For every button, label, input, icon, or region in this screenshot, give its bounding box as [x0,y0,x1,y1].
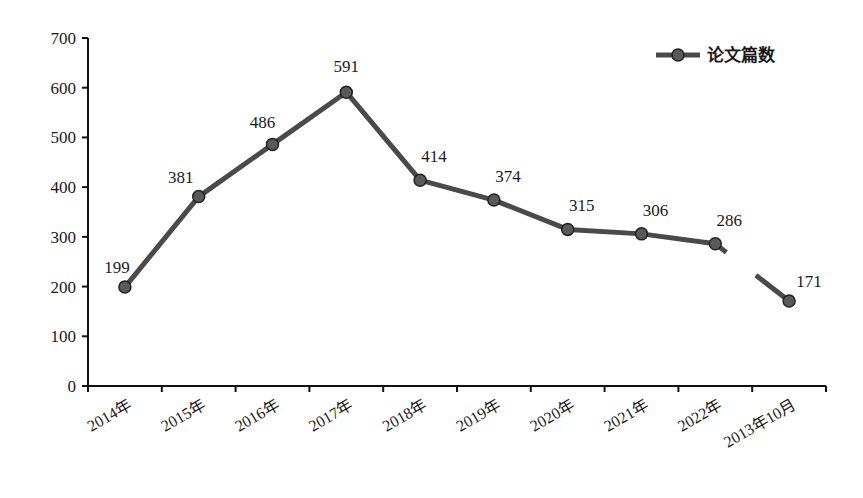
x-tick-label: 2017年 [306,396,356,435]
x-tick-label: 2022年 [675,396,725,435]
series-segment [420,180,494,200]
x-tick-label: 2020年 [527,396,577,435]
y-tick-label: 100 [51,327,77,346]
x-tick-label: 2016年 [232,396,282,435]
x-axis: 2014年2015年2016年2017年2018年2019年2020年2021年… [84,386,826,451]
data-point [636,228,648,240]
data-label: 486 [250,113,276,132]
y-axis: 0100200300400500600700 [51,29,89,396]
series-segment [494,200,568,229]
data-point [267,138,279,150]
legend: 论文篇数 [656,45,776,65]
series-segment [568,229,642,233]
x-tick-label: 2015年 [158,396,208,435]
data-point [783,295,795,307]
legend-marker-icon [672,49,684,61]
series-segment [199,144,273,196]
data-label: 306 [643,201,669,220]
data-point [414,174,426,186]
x-tick-label: 2021年 [601,396,651,435]
y-tick-label: 500 [51,128,77,147]
series-segment [125,197,199,287]
data-label: 374 [495,167,521,186]
data-point [488,194,500,206]
data-label: 199 [104,258,130,277]
y-tick-label: 400 [51,178,77,197]
legend-label: 论文篇数 [707,45,776,65]
data-point [562,223,574,235]
data-label: 286 [717,211,743,230]
data-label: 171 [796,272,822,291]
data-label: 414 [421,147,447,166]
series-line [125,92,789,301]
y-tick-label: 300 [51,228,77,247]
data-label: 381 [168,168,194,187]
y-tick-label: 0 [68,377,77,396]
data-labels: 199381486591414374315306286171 [104,57,822,291]
x-tick-label: 2014年 [84,396,134,435]
y-tick-label: 700 [51,29,77,48]
data-point [340,86,352,98]
markers [119,86,795,307]
series-segment [273,92,347,144]
series-segment [642,234,716,244]
data-point [193,191,205,203]
y-tick-label: 600 [51,79,77,98]
y-tick-label: 200 [51,278,77,297]
data-label: 591 [334,57,360,76]
series-segment [346,92,420,180]
x-tick-label: 2019年 [453,396,503,435]
data-label: 315 [569,196,595,215]
data-point [709,238,721,250]
data-point [119,281,131,293]
x-tick-label: 2018年 [380,396,430,435]
x-tick-label: 2013年10月 [721,396,799,451]
line-chart: 0100200300400500600700 2014年2015年2016年20… [0,0,863,498]
